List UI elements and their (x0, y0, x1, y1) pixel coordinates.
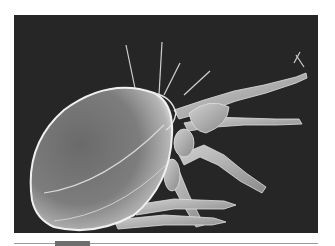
sem-micrograph: Scanning electron micrograph of a mite (14, 15, 318, 233)
tab-block (55, 241, 90, 246)
mite-illustration (14, 15, 318, 233)
